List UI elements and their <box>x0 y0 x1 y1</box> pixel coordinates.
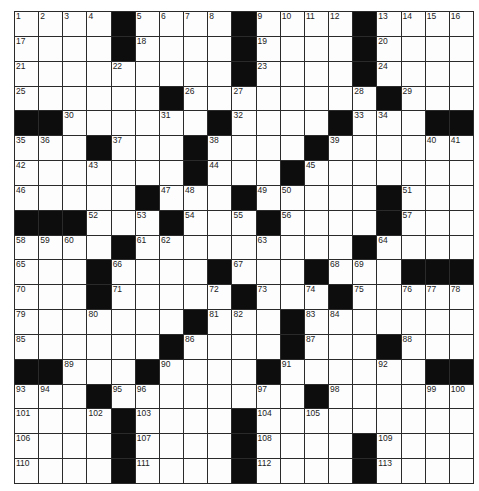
grid-cell[interactable] <box>426 211 449 235</box>
grid-cell[interactable]: 93 <box>15 385 38 409</box>
grid-cell[interactable]: 28 <box>353 87 376 111</box>
grid-cell[interactable] <box>208 211 231 235</box>
grid-cell[interactable] <box>87 236 110 260</box>
grid-cell[interactable] <box>426 37 449 61</box>
grid-cell[interactable] <box>402 161 425 185</box>
grid-cell[interactable]: 112 <box>257 459 280 483</box>
grid-cell[interactable]: 3 <box>63 12 86 36</box>
grid-cell[interactable]: 102 <box>87 409 110 433</box>
grid-cell[interactable] <box>39 87 62 111</box>
grid-cell[interactable] <box>63 37 86 61</box>
grid-cell[interactable] <box>160 260 183 284</box>
grid-cell[interactable] <box>329 335 352 359</box>
grid-cell[interactable] <box>208 236 231 260</box>
grid-cell[interactable]: 31 <box>160 111 183 135</box>
grid-cell[interactable]: 23 <box>257 62 280 86</box>
grid-cell[interactable]: 44 <box>208 161 231 185</box>
grid-cell[interactable]: 90 <box>160 360 183 384</box>
grid-cell[interactable] <box>426 310 449 334</box>
grid-cell[interactable]: 56 <box>281 211 304 235</box>
grid-cell[interactable] <box>184 37 207 61</box>
grid-cell[interactable] <box>112 211 135 235</box>
grid-cell[interactable] <box>39 285 62 309</box>
grid-cell[interactable] <box>232 385 255 409</box>
grid-cell[interactable] <box>305 459 328 483</box>
grid-cell[interactable] <box>87 360 110 384</box>
grid-cell[interactable]: 105 <box>305 409 328 433</box>
grid-cell[interactable] <box>136 62 159 86</box>
grid-cell[interactable] <box>305 37 328 61</box>
grid-cell[interactable] <box>353 335 376 359</box>
grid-cell[interactable] <box>87 459 110 483</box>
grid-cell[interactable]: 71 <box>112 285 135 309</box>
grid-cell[interactable] <box>184 236 207 260</box>
grid-cell[interactable] <box>160 136 183 160</box>
grid-cell[interactable]: 75 <box>353 285 376 309</box>
grid-cell[interactable] <box>281 459 304 483</box>
grid-cell[interactable]: 106 <box>15 434 38 458</box>
grid-cell[interactable] <box>426 87 449 111</box>
grid-cell[interactable] <box>184 459 207 483</box>
grid-cell[interactable] <box>184 409 207 433</box>
grid-cell[interactable]: 42 <box>15 161 38 185</box>
grid-cell[interactable] <box>329 211 352 235</box>
grid-cell[interactable]: 5 <box>136 12 159 36</box>
grid-cell[interactable]: 80 <box>87 310 110 334</box>
grid-cell[interactable]: 94 <box>39 385 62 409</box>
grid-cell[interactable] <box>160 434 183 458</box>
grid-cell[interactable]: 72 <box>208 285 231 309</box>
grid-cell[interactable]: 50 <box>281 186 304 210</box>
grid-cell[interactable] <box>87 335 110 359</box>
grid-cell[interactable] <box>136 161 159 185</box>
grid-cell[interactable] <box>87 186 110 210</box>
grid-cell[interactable]: 40 <box>426 136 449 160</box>
grid-cell[interactable]: 57 <box>402 211 425 235</box>
grid-cell[interactable] <box>39 62 62 86</box>
grid-cell[interactable] <box>39 434 62 458</box>
grid-cell[interactable]: 53 <box>136 211 159 235</box>
grid-cell[interactable]: 65 <box>15 260 38 284</box>
grid-cell[interactable] <box>208 335 231 359</box>
grid-cell[interactable] <box>305 62 328 86</box>
grid-cell[interactable]: 26 <box>184 87 207 111</box>
grid-cell[interactable] <box>112 360 135 384</box>
grid-cell[interactable] <box>305 111 328 135</box>
grid-cell[interactable] <box>305 236 328 260</box>
grid-cell[interactable] <box>112 186 135 210</box>
grid-cell[interactable] <box>160 161 183 185</box>
grid-cell[interactable]: 104 <box>257 409 280 433</box>
grid-cell[interactable] <box>377 285 400 309</box>
grid-cell[interactable]: 73 <box>257 285 280 309</box>
grid-cell[interactable]: 76 <box>402 285 425 309</box>
grid-cell[interactable]: 1 <box>15 12 38 36</box>
grid-cell[interactable]: 107 <box>136 434 159 458</box>
grid-cell[interactable] <box>281 409 304 433</box>
grid-cell[interactable] <box>353 409 376 433</box>
grid-cell[interactable]: 110 <box>15 459 38 483</box>
grid-cell[interactable] <box>329 37 352 61</box>
grid-cell[interactable]: 97 <box>257 385 280 409</box>
grid-cell[interactable]: 8 <box>208 12 231 36</box>
grid-cell[interactable] <box>450 62 473 86</box>
grid-cell[interactable]: 108 <box>257 434 280 458</box>
grid-cell[interactable] <box>136 111 159 135</box>
grid-cell[interactable] <box>257 310 280 334</box>
grid-cell[interactable] <box>208 87 231 111</box>
grid-cell[interactable] <box>402 409 425 433</box>
grid-cell[interactable] <box>184 62 207 86</box>
grid-cell[interactable] <box>232 161 255 185</box>
grid-cell[interactable]: 15 <box>426 12 449 36</box>
grid-cell[interactable]: 109 <box>377 434 400 458</box>
grid-cell[interactable] <box>377 385 400 409</box>
grid-cell[interactable] <box>208 459 231 483</box>
grid-cell[interactable]: 82 <box>232 310 255 334</box>
grid-cell[interactable] <box>305 186 328 210</box>
grid-cell[interactable] <box>257 260 280 284</box>
grid-cell[interactable] <box>257 87 280 111</box>
grid-cell[interactable] <box>39 409 62 433</box>
grid-cell[interactable] <box>87 111 110 135</box>
grid-cell[interactable]: 30 <box>63 111 86 135</box>
grid-cell[interactable] <box>281 236 304 260</box>
grid-cell[interactable] <box>426 459 449 483</box>
grid-cell[interactable]: 88 <box>402 335 425 359</box>
